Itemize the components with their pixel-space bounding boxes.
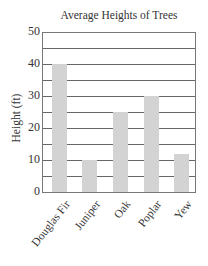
y-tick-label: 50	[10, 25, 40, 37]
y-tick-label: 10	[10, 153, 40, 165]
bar-yew	[174, 154, 189, 192]
bar-juniper	[82, 160, 97, 192]
chart-title: Average Heights of Trees	[42, 9, 196, 21]
bar-douglas-fir	[52, 64, 67, 192]
y-tick-label: 30	[10, 89, 40, 101]
gridline	[43, 48, 195, 49]
y-tick-label: 0	[10, 185, 40, 197]
y-tick-label: 40	[10, 57, 40, 69]
x-tick-label: Juniper	[72, 198, 102, 232]
x-tick-label: Oak	[112, 198, 133, 220]
bar-oak	[113, 112, 128, 192]
x-tick-label: Poplar	[136, 198, 164, 229]
bar-poplar	[144, 96, 159, 192]
plot-area	[42, 32, 196, 193]
y-tick-label: 20	[10, 121, 40, 133]
x-tick-label: Yew	[172, 198, 194, 222]
x-tick-label: Douglas Fir	[29, 198, 72, 248]
